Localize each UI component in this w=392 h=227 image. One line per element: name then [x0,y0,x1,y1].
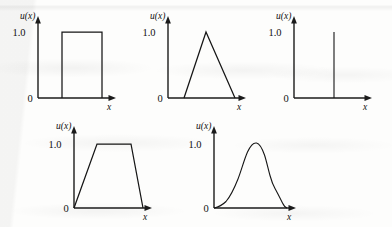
y-tick-zero-label: 0 [157,93,162,104]
y-tick-top-label: 1.0 [142,27,155,38]
data-curve [62,32,102,98]
y-axis-arrowhead [211,126,217,134]
y-axis-arrowhead [71,126,77,134]
plot-triangular-pulse: 1.0 0 u(x) x [136,8,260,108]
y-axis-label: u(x) [150,11,165,22]
x-axis-arrowhead [109,95,117,101]
x-axis-arrowhead [365,95,373,101]
y-tick-zero-label: 0 [63,203,68,214]
y-tick-top-label: 1.0 [48,139,61,150]
x-axis-label: x [362,102,368,112]
y-tick-zero-label: 0 [203,203,208,214]
y-axis-arrowhead [291,16,297,24]
panel-triangular-pulse: 1.0 0 u(x) x [136,8,260,108]
y-tick-top-label: 1.0 [268,27,281,38]
y-tick-top-label: 1.0 [188,139,201,150]
plot-rectangular-pulse: 1.0 0 u(x) x [6,8,130,108]
panel-bell-curve: 1.0 0 u(x) x [182,118,312,218]
data-curve [184,32,235,98]
figure-container: 1.0 0 u(x) x 1.0 0 u(x) x 1. [0,0,392,227]
y-tick-zero-label: 0 [27,93,32,104]
x-axis-label: x [286,212,292,222]
y-axis-label: u(x) [20,11,35,22]
y-tick-top-label: 1.0 [12,27,25,38]
plot-bell-curve: 1.0 0 u(x) x [182,118,312,218]
x-axis-label: x [142,212,148,222]
plot-trapezoidal-pulse: 1.0 0 u(x) x [42,118,166,218]
y-axis-label: u(x) [56,121,71,132]
x-axis-arrowhead [239,95,247,101]
panel-rectangular-pulse: 1.0 0 u(x) x [6,8,130,108]
x-axis-label: x [106,102,112,112]
y-axis-arrowhead [165,16,171,24]
x-axis-label: x [236,102,242,112]
y-axis-arrowhead [35,16,41,24]
panel-impulse-spike: 1.0 0 u(x) x [262,8,386,108]
data-curve [74,144,143,208]
plot-impulse-spike: 1.0 0 u(x) x [262,8,386,108]
y-axis-label: u(x) [276,11,291,22]
x-axis-arrowhead [145,205,153,211]
data-curve [214,143,287,208]
y-axis-label: u(x) [196,121,211,132]
y-tick-zero-label: 0 [283,93,288,104]
panel-trapezoidal-pulse: 1.0 0 u(x) x [42,118,166,218]
x-axis-arrowhead [289,205,297,211]
